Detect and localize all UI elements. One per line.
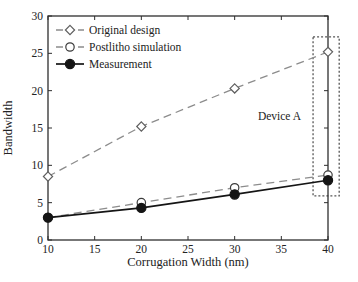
y-tick-label: 20 (32, 85, 44, 97)
y-tick-label: 10 (32, 159, 44, 171)
x-tick-label: 35 (276, 243, 288, 255)
y-axis-title: Bandwidth (1, 100, 15, 156)
legend-sample-marker (65, 59, 74, 68)
x-tick-label: 40 (322, 243, 334, 255)
figure: 10152025303540051015202530Corrugation Wi… (0, 0, 358, 282)
data-point-measurement (137, 203, 146, 212)
y-tick-label: 0 (37, 234, 43, 246)
x-tick-label: 20 (136, 243, 148, 255)
y-tick-label: 15 (32, 122, 44, 134)
series-line-measurement (48, 180, 328, 217)
x-tick-label: 25 (182, 243, 194, 255)
legend-sample-marker (66, 43, 74, 51)
legend-label: Postlitho simulation (89, 41, 182, 53)
legend-label: Measurement (89, 58, 152, 70)
chart-canvas: 10152025303540051015202530Corrugation Wi… (0, 0, 358, 282)
x-tick-label: 10 (42, 243, 54, 255)
data-point-measurement (43, 213, 52, 222)
legend-label: Original design (89, 24, 160, 37)
data-point-measurement (230, 190, 239, 199)
y-tick-label: 25 (32, 47, 44, 59)
data-point-original-design (43, 172, 52, 181)
data-point-measurement (323, 176, 332, 185)
data-point-original-design (323, 47, 332, 56)
annotation-device-a: Device A (258, 110, 302, 122)
legend-sample-marker (65, 25, 74, 34)
x-tick-label: 30 (229, 243, 241, 255)
x-axis-title: Corrugation Width (nm) (127, 255, 248, 269)
data-point-original-design (137, 122, 146, 131)
series-line-postlitho-simulation (48, 175, 328, 218)
y-tick-label: 5 (37, 197, 43, 209)
data-point-original-design (230, 84, 239, 93)
x-tick-label: 15 (89, 243, 101, 255)
y-tick-label: 30 (32, 10, 44, 22)
